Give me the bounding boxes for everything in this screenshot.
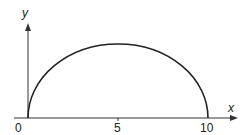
tick-label-10: 10: [200, 121, 214, 135]
y-axis-arrow-icon: [25, 23, 31, 31]
chart-canvas: y x 0 5 10: [0, 0, 243, 135]
tick-label-5: 5: [114, 121, 121, 135]
curve: [28, 44, 208, 118]
x-axis-arrow-icon: [230, 115, 238, 121]
tick-label-0: 0: [15, 121, 22, 135]
x-axis-label: x: [227, 101, 235, 115]
y-axis-label: y: [21, 6, 29, 20]
